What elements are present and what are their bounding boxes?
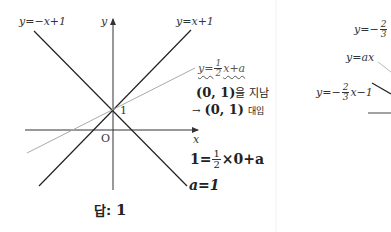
bottom-eq-suffix: x−1 bbox=[350, 86, 372, 99]
label-origin: O bbox=[101, 132, 110, 145]
passes-point-line: (0, 1)을 지남 bbox=[196, 84, 269, 100]
passes-point: (0, 1) bbox=[196, 85, 235, 100]
right-line-steep bbox=[372, 83, 391, 94]
substitute-line: → (0, 1) 대입 bbox=[192, 102, 264, 117]
subst-point: (0, 1) bbox=[205, 102, 244, 117]
bottom-eq-den: 3 bbox=[343, 93, 349, 102]
right-label-ax: y=ax bbox=[346, 51, 374, 64]
passes-text: 을 지남 bbox=[235, 87, 269, 100]
bottom-eq-prefix: y=− bbox=[316, 86, 341, 99]
calc-suffix: ×0+a bbox=[222, 151, 264, 167]
calculation-line: 1=12×0+a bbox=[190, 149, 264, 170]
subst-text: 대입 bbox=[248, 106, 264, 116]
top-eq-den: 3 bbox=[381, 30, 387, 39]
answer-value: 1 bbox=[116, 201, 126, 219]
fraction-calc: 12 bbox=[212, 149, 220, 170]
calc-den: 2 bbox=[213, 160, 219, 170]
line-neg-x-plus-1 bbox=[34, 31, 187, 186]
line-half-x-plus-a bbox=[27, 68, 195, 153]
right-label-top-eq: y=−23 bbox=[354, 20, 388, 39]
top-eq-prefix: y=− bbox=[354, 23, 379, 36]
label-line-neg: y=−x+1 bbox=[19, 15, 66, 28]
label-x-axis: x bbox=[193, 133, 199, 146]
label-y-axis: y bbox=[101, 15, 107, 28]
label-intercept: 1 bbox=[120, 104, 127, 117]
equation-half-x-plus-a: y=12x+a bbox=[198, 59, 245, 78]
frac-den: 2 bbox=[215, 69, 221, 78]
label-line-pos: y=x+1 bbox=[176, 15, 214, 28]
top-eq-fraction: 23 bbox=[380, 20, 388, 39]
bottom-eq-fraction: 23 bbox=[342, 83, 350, 102]
answer-label: 답: bbox=[94, 203, 111, 218]
eq-prefix: y= bbox=[198, 62, 213, 75]
answer: 답: 1 bbox=[94, 200, 126, 219]
fraction-one-half: 12 bbox=[214, 59, 222, 78]
calc-prefix: 1= bbox=[190, 151, 211, 167]
arrow-icon: → bbox=[192, 105, 200, 116]
right-label-bottom-eq: y=−23x−1 bbox=[316, 83, 373, 102]
result-a-equals-1: a=1 bbox=[189, 177, 220, 193]
eq-suffix: x+a bbox=[223, 62, 245, 75]
right-line-ax bbox=[378, 62, 391, 72]
